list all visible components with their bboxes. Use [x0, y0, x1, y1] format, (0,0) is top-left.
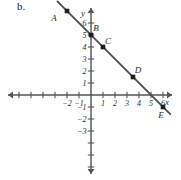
data-point-marker — [89, 33, 94, 38]
data-point-label: D — [134, 65, 142, 75]
data-point-marker — [131, 75, 136, 80]
x-tick-label: −2 — [62, 99, 71, 108]
data-point-label: A — [50, 13, 57, 23]
y-tick-label: 3 — [82, 55, 87, 64]
x-tick-label: 3 — [124, 99, 129, 108]
x-tick-label: 2 — [113, 99, 117, 108]
data-point-label: B — [93, 23, 99, 33]
y-tick-label: 1 — [83, 79, 87, 88]
tick-labels-group: −2−1123456654321−1−2−3 — [62, 19, 165, 136]
x-tick-label: 5 — [149, 99, 153, 108]
x-tick-label: 1 — [101, 99, 105, 108]
y-tick-label: 2 — [83, 67, 87, 76]
y-tick-label: 5 — [83, 31, 87, 40]
data-point-label: C — [105, 36, 112, 46]
y-tick-label: −2 — [77, 115, 86, 124]
y-tick-label: −1 — [77, 103, 86, 112]
plotted-line — [57, 1, 170, 114]
y-tick-label: −3 — [77, 127, 86, 136]
data-point-marker — [65, 9, 70, 14]
coordinate-plane: −2−1123456654321−1−2−3 ABCDE xy — [0, 0, 181, 180]
y-tick-label: 4 — [83, 43, 87, 52]
y-axis-label: y — [80, 8, 85, 18]
x-axis-label: x — [164, 97, 169, 107]
data-point-label: E — [157, 110, 164, 120]
graph-figure: b. −2−1123456654321−1−2−3 ABCDE xy — [0, 0, 181, 180]
x-tick-label: 4 — [137, 99, 141, 108]
